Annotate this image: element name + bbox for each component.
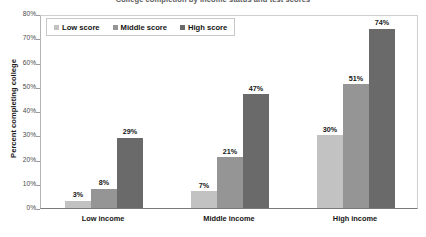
legend-item[interactable]: Low score xyxy=(54,23,100,32)
x-axis-category-label: Low income xyxy=(43,214,163,223)
legend-swatch-icon xyxy=(180,25,185,30)
bar: 47% xyxy=(243,94,269,208)
y-axis-tick-label: 20% xyxy=(0,156,36,163)
y-axis-tick-label: 60% xyxy=(0,59,36,66)
legend-label: Low score xyxy=(62,23,100,32)
x-axis-category-label: Middle income xyxy=(169,214,289,223)
plot-area: 3%8%29%7%21%47%30%51%74% xyxy=(40,15,418,209)
y-axis-tick-mark xyxy=(36,209,40,210)
bar-value-label: 47% xyxy=(249,84,263,93)
chart-container: College completion by income status and … xyxy=(0,0,426,237)
y-axis-tick-label: 50% xyxy=(0,83,36,90)
y-axis-tick-label: 10% xyxy=(0,180,36,187)
x-axis-category-label: High income xyxy=(295,214,415,223)
bar: 21% xyxy=(217,157,243,208)
bar-value-label: 74% xyxy=(375,18,389,27)
legend-label: High score xyxy=(188,23,227,32)
bar-value-label: 29% xyxy=(123,127,137,136)
bar: 3% xyxy=(65,201,91,208)
y-axis-tick-label: 0% xyxy=(0,204,36,211)
bar: 29% xyxy=(117,138,143,208)
bar-value-label: 8% xyxy=(99,178,109,187)
bar: 74% xyxy=(369,29,395,208)
chart-title: College completion by income status and … xyxy=(0,0,426,4)
legend-item[interactable]: Middle score xyxy=(113,23,167,32)
bar: 30% xyxy=(317,135,343,208)
bar-value-label: 51% xyxy=(349,74,363,83)
legend-item[interactable]: High score xyxy=(180,23,227,32)
bar: 8% xyxy=(91,189,117,208)
bar: 51% xyxy=(343,84,369,208)
legend-label: Middle score xyxy=(121,23,167,32)
y-axis-tick-label: 30% xyxy=(0,131,36,138)
y-axis-tick-label: 70% xyxy=(0,34,36,41)
y-axis-tick-label: 40% xyxy=(0,107,36,114)
chart-legend: Low scoreMiddle scoreHigh score xyxy=(46,18,235,36)
bar-value-label: 30% xyxy=(323,125,337,134)
bar-value-label: 7% xyxy=(199,181,209,190)
bar-value-label: 21% xyxy=(223,147,237,156)
bar-value-label: 3% xyxy=(73,190,83,199)
y-axis-tick-label: 80% xyxy=(0,10,36,17)
legend-swatch-icon xyxy=(54,25,59,30)
legend-swatch-icon xyxy=(113,25,118,30)
bar: 7% xyxy=(191,191,217,208)
